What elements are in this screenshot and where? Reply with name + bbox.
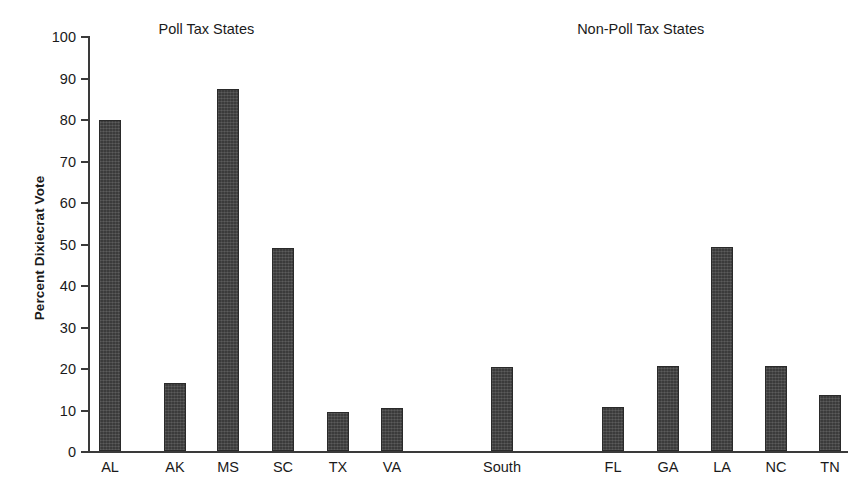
y-tick-50 xyxy=(81,244,88,246)
x-label-south: South xyxy=(483,459,521,476)
x-label-nc: NC xyxy=(766,459,787,476)
x-label-va: VA xyxy=(383,459,401,476)
bar-sc xyxy=(272,248,294,451)
y-tick-label-30: 30 xyxy=(24,320,76,335)
y-tick-70 xyxy=(81,161,88,163)
bar-chart-figure: Percent Dixiecrat Vote 01020304050607080… xyxy=(0,0,860,496)
bar-al xyxy=(99,120,121,451)
bar-tn xyxy=(819,395,841,451)
y-tick-label-60: 60 xyxy=(24,196,76,211)
y-tick-label-20: 20 xyxy=(24,362,76,377)
bar-ak xyxy=(164,383,186,451)
y-tick-label-100: 100 xyxy=(24,30,76,45)
x-label-ga: GA xyxy=(658,459,679,476)
x-label-la: LA xyxy=(713,459,731,476)
y-tick-40 xyxy=(81,285,88,287)
x-label-tx: TX xyxy=(329,459,348,476)
bar-south xyxy=(491,367,513,451)
y-tick-label-50: 50 xyxy=(24,237,76,252)
y-tick-20 xyxy=(81,368,88,370)
x-label-al: AL xyxy=(101,459,119,476)
y-tick-60 xyxy=(81,202,88,204)
group-title-poll-tax-states: Poll Tax States xyxy=(159,21,255,38)
y-tick-label-10: 10 xyxy=(24,403,76,418)
x-label-fl: FL xyxy=(605,459,622,476)
bar-tx xyxy=(327,412,349,451)
y-tick-label-40: 40 xyxy=(24,279,76,294)
y-tick-label-0: 0 xyxy=(24,445,76,460)
x-label-tn: TN xyxy=(820,459,839,476)
y-tick-100 xyxy=(81,36,88,38)
bar-va xyxy=(381,408,403,451)
group-title-non-poll-tax-states: Non-Poll Tax States xyxy=(577,21,704,38)
y-tick-80 xyxy=(81,119,88,121)
y-tick-90 xyxy=(81,78,88,80)
bar-ga xyxy=(657,366,679,451)
y-tick-label-90: 90 xyxy=(24,71,76,86)
plot-area: 0102030405060708090100 ALAKMSSCTXVASouth… xyxy=(0,0,860,496)
y-tick-label-70: 70 xyxy=(24,154,76,169)
bar-nc xyxy=(765,366,787,451)
y-tick-10 xyxy=(81,410,88,412)
x-label-ak: AK xyxy=(165,459,184,476)
y-tick-label-80: 80 xyxy=(24,113,76,128)
y-axis-line xyxy=(88,36,90,453)
x-label-ms: MS xyxy=(217,459,239,476)
bar-fl xyxy=(602,407,624,451)
y-tick-0 xyxy=(81,451,88,453)
x-axis-line xyxy=(88,451,848,453)
bar-la xyxy=(711,247,733,451)
y-tick-30 xyxy=(81,327,88,329)
x-label-sc: SC xyxy=(273,459,293,476)
bar-ms xyxy=(217,89,239,451)
